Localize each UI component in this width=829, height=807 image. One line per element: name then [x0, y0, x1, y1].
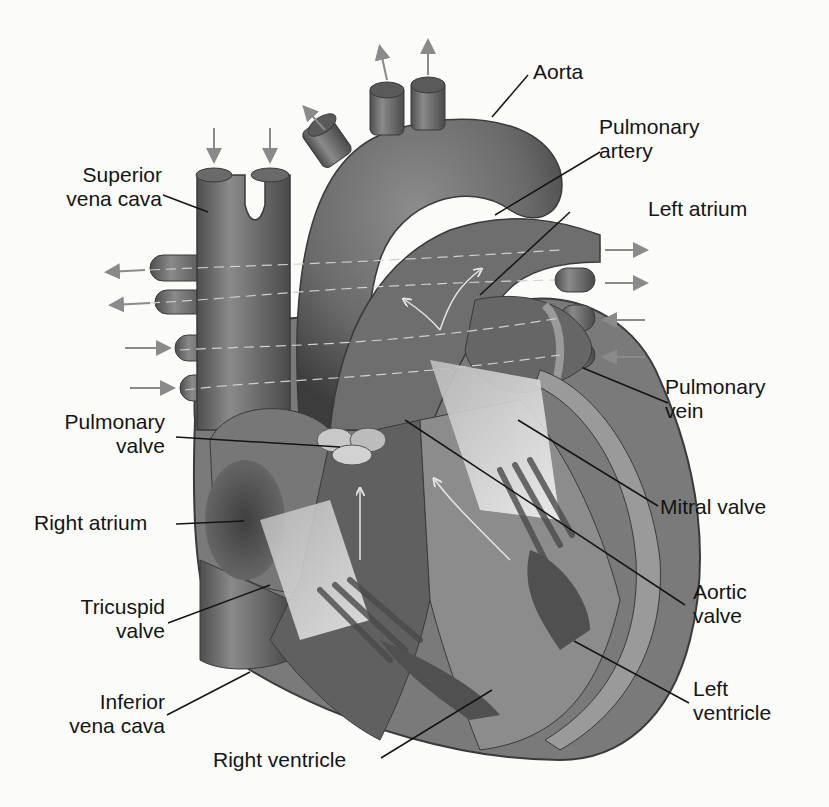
label-right-atrium-text: Right atrium — [34, 511, 147, 534]
label-inferior-vena-cava-line1: Inferior — [30, 690, 165, 714]
label-pulmonary-vein-line2: vein — [665, 399, 765, 423]
heart-diagram: Aorta Pulmonary artery Superior vena cav… — [0, 0, 829, 807]
label-right-ventricle: Right ventricle — [213, 748, 346, 772]
label-pulmonary-valve-line1: Pulmonary — [30, 410, 165, 434]
label-aortic-valve-line2: valve — [693, 604, 747, 628]
label-aorta-text: Aorta — [533, 60, 583, 83]
label-right-atrium: Right atrium — [34, 511, 147, 535]
label-left-ventricle: Left ventricle — [693, 677, 771, 725]
label-aorta: Aorta — [533, 60, 583, 84]
label-pulmonary-artery-line1: Pulmonary — [599, 115, 699, 139]
label-tricuspid-valve-line1: Tricuspid — [40, 595, 165, 619]
label-right-ventricle-text: Right ventricle — [213, 748, 346, 771]
label-superior-vena-cava-line2: vena cava — [40, 187, 162, 211]
label-aortic-valve: Aortic valve — [693, 580, 747, 628]
label-superior-vena-cava-line1: Superior — [40, 163, 162, 187]
label-tricuspid-valve-line2: valve — [40, 619, 165, 643]
label-pulmonary-artery: Pulmonary artery — [599, 115, 699, 163]
label-left-atrium: Left atrium — [648, 197, 747, 221]
superior-vena-cava — [196, 168, 290, 430]
label-pulmonary-vein: Pulmonary vein — [665, 375, 765, 423]
label-left-ventricle-line2: ventricle — [693, 701, 771, 725]
label-tricuspid-valve: Tricuspid valve — [40, 595, 165, 643]
label-pulmonary-vein-line1: Pulmonary — [665, 375, 765, 399]
label-left-ventricle-line1: Left — [693, 677, 771, 701]
label-pulmonary-artery-line2: artery — [599, 139, 699, 163]
label-left-atrium-text: Left atrium — [648, 197, 747, 220]
label-pulmonary-valve: Pulmonary valve — [30, 410, 165, 458]
label-inferior-vena-cava: Inferior vena cava — [30, 690, 165, 738]
label-superior-vena-cava: Superior vena cava — [40, 163, 162, 211]
label-inferior-vena-cava-line2: vena cava — [30, 714, 165, 738]
label-mitral-valve-text: Mitral valve — [660, 495, 766, 518]
label-pulmonary-valve-line2: valve — [30, 434, 165, 458]
label-mitral-valve: Mitral valve — [660, 495, 766, 519]
label-aortic-valve-line1: Aortic — [693, 580, 747, 604]
